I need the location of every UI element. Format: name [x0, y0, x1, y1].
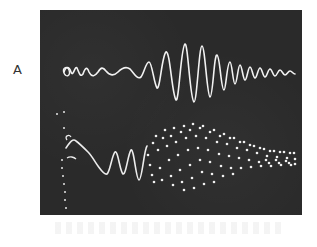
- left-dotted-marker: [56, 111, 67, 209]
- oscilloscope-photo: [40, 10, 302, 215]
- panel-label: A: [13, 62, 22, 77]
- lower-trace-dotted: [147, 123, 297, 192]
- lower-trace-continuous: [66, 140, 147, 180]
- faint-caption-bleed: [55, 222, 285, 234]
- waveform-plot: [40, 10, 302, 215]
- upper-trace: [64, 44, 295, 102]
- lower-trace-start-scribble: [66, 136, 76, 159]
